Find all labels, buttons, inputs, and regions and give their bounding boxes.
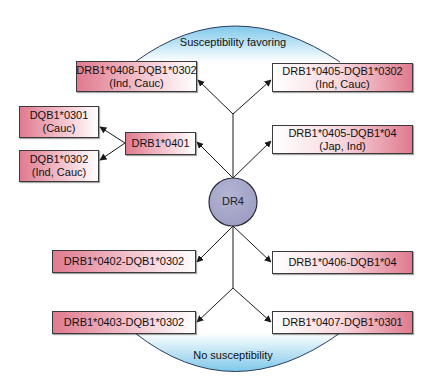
node-dqb1-0301: DQB1*0301 (Cauc) [19, 106, 99, 138]
node-line1: DRB1*0402-DQB1*0302 [64, 255, 184, 268]
arrow-to-0401 [197, 142, 233, 178]
node-line2: (Jap, Ind) [319, 140, 365, 153]
susceptibility-favoring-label: Susceptibility favoring [170, 36, 296, 48]
node-line1: DQB1*0302 [30, 153, 89, 166]
node-line1: DRB1*0408-DQB1*0302 [76, 64, 196, 77]
arrow-to-dqb1-0302 [100, 143, 125, 160]
node-drb1-0406-dqb1-04: DRB1*0406-DQB1*04 [272, 251, 413, 274]
node-drb1-0407-dqb1-0301: DRB1*0407-DQB1*0301 [272, 311, 413, 334]
node-line1: DRB1*0407-DQB1*0301 [282, 316, 402, 329]
arrow-to-0402 [197, 226, 233, 262]
node-line1: DRB1*0403-DQB1*0302 [64, 316, 184, 329]
node-drb1-0403-dqb1-0302: DRB1*0403-DQB1*0302 [52, 311, 196, 334]
arrow-to-0408 [198, 80, 233, 114]
arrow-to-0403 [197, 288, 233, 322]
node-line1: DRB1*0406-DQB1*04 [288, 256, 396, 269]
arrow-to-0407 [233, 288, 271, 322]
node-drb1-0405-dqb1-0302: DRB1*0405-DQB1*0302 (Ind, Cauc) [272, 63, 413, 92]
node-drb1-0402-dqb1-0302: DRB1*0402-DQB1*0302 [52, 250, 196, 273]
node-line2: (Cauc) [42, 122, 75, 135]
node-line2: (Ind, Cauc) [32, 166, 86, 179]
node-drb1-0405-dqb1-04: DRB1*0405-DQB1*04 (Jap, Ind) [272, 125, 413, 154]
node-drb1-0408-dqb1-0302: DRB1*0408-DQB1*0302 (Ind, Cauc) [76, 61, 197, 92]
node-line2: (Ind, Cauc) [315, 78, 369, 91]
node-line1: DRB1*0405-DQB1*04 [288, 127, 396, 140]
arrow-to-dqb1-0301 [100, 127, 125, 143]
node-drb1-0401: DRB1*0401 [125, 132, 196, 155]
arrow-to-0405-04 [233, 141, 271, 178]
dr4-label: DR4 [209, 195, 257, 207]
node-line1: DRB1*0405-DQB1*0302 [282, 65, 402, 78]
node-line2: (Ind, Cauc) [109, 77, 163, 90]
no-susceptibility-label: No susceptibility [176, 349, 290, 361]
node-line1: DRB1*0401 [131, 137, 189, 150]
arrow-to-0405-0302 [233, 80, 271, 114]
node-line1: DQB1*0301 [30, 109, 89, 122]
arrow-to-0406 [233, 226, 271, 262]
node-dqb1-0302: DQB1*0302 (Ind, Cauc) [19, 150, 99, 182]
